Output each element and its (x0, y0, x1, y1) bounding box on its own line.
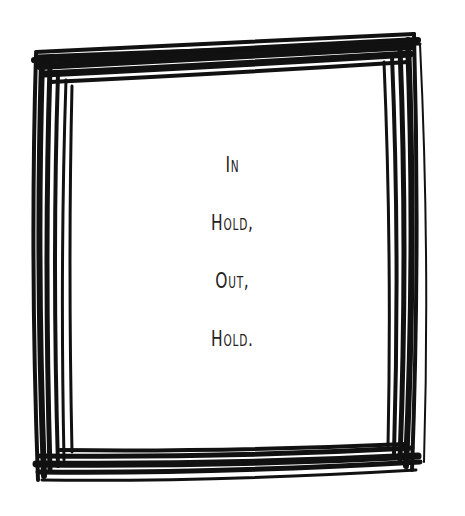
poem-line-out: Out, (51, 268, 414, 293)
poem-line-hold: Hold, (51, 210, 414, 235)
poem-line-in: In (51, 152, 414, 177)
poem-line-hold-end: Hold. (51, 326, 414, 351)
scribbled-frame (0, 0, 465, 516)
